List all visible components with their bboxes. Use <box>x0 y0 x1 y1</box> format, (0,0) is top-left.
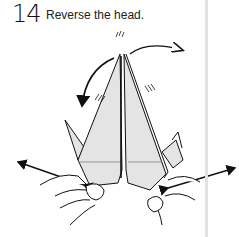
instruction-panel: 14 Reverse the head. <box>0 0 205 237</box>
curved-arrow-reverse <box>130 46 182 54</box>
crane-body-left <box>78 54 122 186</box>
origami-diagram <box>0 0 239 237</box>
crane-body-right <box>121 54 168 190</box>
page-divider <box>205 0 208 237</box>
